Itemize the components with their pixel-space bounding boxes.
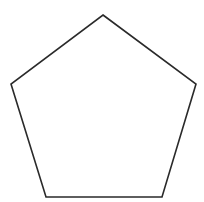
pentagon-shape: [11, 15, 196, 197]
diagram-canvas: [0, 0, 204, 202]
